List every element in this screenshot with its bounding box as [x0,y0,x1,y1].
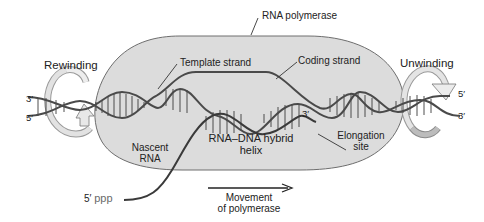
elongation-label-line1: Elongation [326,130,396,141]
elongation-site-label: Elongation site [326,130,396,152]
hybrid-label-line1: RNA–DNA hybrid [196,132,306,144]
rna-dna-hybrid-label: RNA–DNA hybrid helix [196,132,306,156]
nascent-rna-label-line1: Nascent [128,142,172,153]
coding-strand-label: Coding strand [298,55,360,66]
movement-label-line1: Movement [206,192,292,203]
nascent-rna-label: Nascent RNA [128,142,172,164]
movement-label-line2: of polymerase [206,203,292,214]
rna-polymerase-label: RNA polymerase [262,10,337,21]
right-5prime-label: 5′ [458,88,465,99]
template-strand-label: Template strand [180,57,251,68]
triphosphate-label: ppp [94,192,112,204]
rewinding-label: Rewinding [44,60,98,71]
nascent-rna-label-line2: RNA [128,153,172,164]
transcription-diagram [0,0,484,222]
hybrid-label-line2: helix [196,144,306,156]
unwinding-label: Unwinding [400,58,454,69]
left-3prime-label: 3′ [26,93,33,104]
elongation-label-line2: site [326,141,396,152]
movement-arrow-icon [208,184,292,192]
left-5prime-label: 5′ [26,112,33,123]
movement-of-polymerase-label: Movement of polymerase [206,192,292,214]
right-3prime-label: 3′ [458,110,465,121]
rna-5prime-end-label: 5′ ppp [84,193,113,204]
rna-3prime-label: 3′ [302,108,309,119]
rna-5prime-label: 5′ [84,193,91,204]
